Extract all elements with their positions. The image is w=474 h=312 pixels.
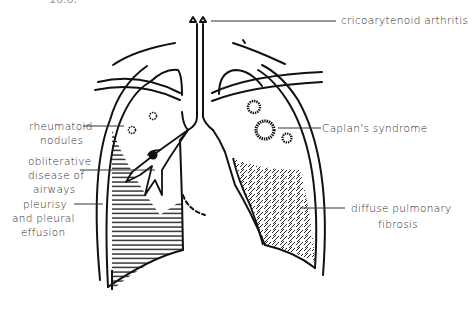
trachea [188,24,213,130]
label-rheumatoid-nodules-line1: rheumatoid [29,120,93,132]
label-obliterative-line3: airways [33,183,75,195]
label-pleurisy-line2: and pleural [12,212,75,224]
rheumatoid-nodules [129,113,158,160]
label-pleurisy-line3: effusion [21,226,65,238]
label-caplans-syndrome: Caplan's syndrome [322,122,427,134]
label-pleurisy-line1: pleurisy [23,198,67,210]
caplans-nodules [248,101,292,143]
label-obliterative-line1: obliterative [28,155,92,167]
label-diffuse-pulmonary-fibrosis-line1: diffuse pulmonary [351,202,452,214]
label-obliterative-line2: disease of [28,169,84,181]
label-cricoarytenoid-arthritis: cricoarytenoid arthritis [341,14,468,26]
fibrosis-texture [233,158,315,262]
label-diffuse-pulmonary-fibrosis-line2: fibrosis [378,218,418,230]
cricoarytenoid-joints [190,17,206,22]
label-rheumatoid-nodules-line2: nodules [40,134,83,146]
